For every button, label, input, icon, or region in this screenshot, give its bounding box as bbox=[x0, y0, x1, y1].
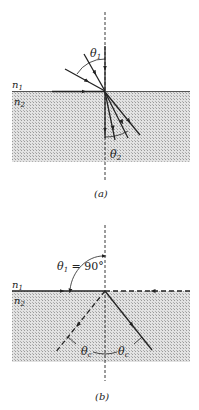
theta1-label: θ1 bbox=[90, 47, 101, 61]
figure-a: θ1 θ2 n1 n2 (a) bbox=[12, 12, 190, 199]
n1-label: n1 bbox=[12, 79, 23, 92]
figure-b: θ1 = 90° θc θc n1 n2 (b) bbox=[12, 225, 190, 402]
caption-b: (b) bbox=[95, 391, 109, 402]
medium-n2-region bbox=[12, 291, 190, 362]
refraction-diagram: θ1 θ2 n1 n2 (a) θ1 = 90° θc θc n1 n2 (b) bbox=[0, 0, 199, 410]
medium-n2-region bbox=[12, 92, 190, 162]
caption-a: (a) bbox=[94, 188, 108, 199]
n1-label: n1 bbox=[12, 279, 23, 292]
theta1-90-label: θ1 = 90° bbox=[57, 260, 104, 274]
